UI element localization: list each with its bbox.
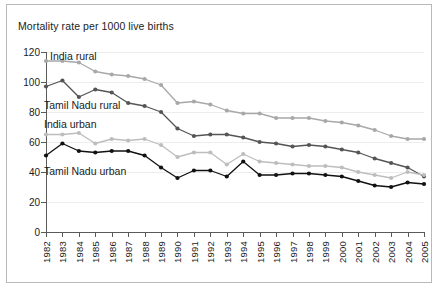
data-point xyxy=(373,156,377,160)
data-point xyxy=(258,140,262,144)
data-point xyxy=(356,123,360,127)
data-point xyxy=(373,173,377,177)
data-point xyxy=(307,116,311,120)
data-point xyxy=(110,72,114,76)
data-point xyxy=(307,143,311,147)
data-point xyxy=(356,150,360,154)
data-point xyxy=(356,179,360,183)
data-point xyxy=(340,120,344,124)
data-point xyxy=(340,174,344,178)
data-point xyxy=(389,185,393,189)
data-point xyxy=(405,170,409,174)
data-point xyxy=(77,131,81,135)
data-point xyxy=(143,137,147,141)
data-point xyxy=(126,149,130,153)
data-point xyxy=(422,182,426,186)
data-point xyxy=(307,164,311,168)
data-point xyxy=(241,159,245,163)
data-point xyxy=(258,159,262,163)
data-point xyxy=(290,144,294,148)
data-point xyxy=(143,104,147,108)
series-label-tamil-nadu-rural: Tamil Nadu rural xyxy=(44,99,120,111)
data-point xyxy=(340,147,344,151)
data-point xyxy=(274,161,278,165)
data-point xyxy=(225,174,229,178)
data-point xyxy=(290,162,294,166)
series-label-india-rural: India rural xyxy=(50,50,97,62)
data-point xyxy=(159,83,163,87)
data-point xyxy=(323,119,327,123)
data-point xyxy=(60,132,64,136)
data-point xyxy=(405,137,409,141)
data-point xyxy=(405,180,409,184)
chart-figure: Mortality rate per 1000 live births 0204… xyxy=(0,0,438,288)
data-point xyxy=(323,144,327,148)
data-point xyxy=(143,153,147,157)
data-point xyxy=(208,168,212,172)
data-point xyxy=(192,134,196,138)
data-point xyxy=(258,173,262,177)
data-point xyxy=(208,150,212,154)
data-point xyxy=(274,116,278,120)
data-point xyxy=(208,102,212,106)
data-point xyxy=(159,165,163,169)
data-point xyxy=(389,176,393,180)
data-point xyxy=(274,141,278,145)
data-point xyxy=(258,111,262,115)
data-point xyxy=(44,132,48,136)
data-point xyxy=(225,108,229,112)
data-point xyxy=(44,59,48,63)
data-point xyxy=(389,134,393,138)
data-point xyxy=(241,152,245,156)
data-point xyxy=(208,132,212,136)
data-point xyxy=(93,150,97,154)
data-point xyxy=(110,149,114,153)
data-point xyxy=(241,135,245,139)
data-point xyxy=(241,111,245,115)
data-point xyxy=(93,69,97,73)
data-point xyxy=(44,153,48,157)
data-point xyxy=(422,137,426,141)
data-point xyxy=(290,171,294,175)
data-point xyxy=(126,101,130,105)
data-point xyxy=(290,116,294,120)
data-point xyxy=(159,110,163,114)
data-point xyxy=(175,101,179,105)
data-point xyxy=(373,128,377,132)
data-point xyxy=(60,78,64,82)
data-point xyxy=(356,170,360,174)
series-label-india-urban: India urban xyxy=(44,118,97,130)
data-point xyxy=(126,138,130,142)
data-point xyxy=(225,132,229,136)
data-point xyxy=(405,165,409,169)
data-point xyxy=(323,173,327,177)
data-point xyxy=(192,150,196,154)
data-point xyxy=(44,84,48,88)
data-point xyxy=(422,173,426,177)
data-point xyxy=(340,165,344,169)
data-point xyxy=(175,126,179,130)
data-point xyxy=(307,171,311,175)
data-point xyxy=(143,77,147,81)
data-point xyxy=(60,141,64,145)
data-point xyxy=(175,176,179,180)
series-layer xyxy=(0,0,438,288)
series-label-tamil-nadu-urban: Tamil Nadu urban xyxy=(44,165,126,177)
data-point xyxy=(159,143,163,147)
data-point xyxy=(93,87,97,91)
data-point xyxy=(373,183,377,187)
data-point xyxy=(389,161,393,165)
data-point xyxy=(110,137,114,141)
data-point xyxy=(77,149,81,153)
data-point xyxy=(175,155,179,159)
data-point xyxy=(192,99,196,103)
data-point xyxy=(126,74,130,78)
data-point xyxy=(93,141,97,145)
data-point xyxy=(323,164,327,168)
data-point xyxy=(274,173,278,177)
data-point xyxy=(110,90,114,94)
data-point xyxy=(192,168,196,172)
data-point xyxy=(225,162,229,166)
